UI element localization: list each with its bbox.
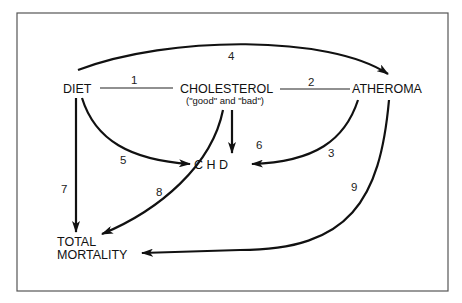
edge-5-diet-to-chd [82,98,190,164]
node-atheroma: ATHEROMA [352,82,423,96]
edge-6-label: 6 [256,139,262,151]
node-cholesterol-sublabel: ("good" and "bad") [186,95,264,106]
node-total-mortality-line1: TOTAL [57,235,96,249]
edge-8-cholesterol-to-mortality [102,110,223,234]
edge-3-atheroma-to-chd [252,100,358,164]
edge-4-label: 4 [228,50,235,62]
node-chd: C H D [194,158,228,172]
edge-9-atheroma-to-mortality [142,100,389,253]
edge-2-label: 2 [308,76,314,88]
edge-1-label: 1 [131,74,137,86]
edge-5-label: 5 [120,154,126,166]
edge-8-label: 8 [156,186,162,198]
node-cholesterol: CHOLESTEROL [180,82,273,96]
edge-7-label: 7 [61,183,67,195]
causal-diagram: 4 1 2 7 5 6 8 3 9 DIET CHOLESTEROL ("goo… [0,0,462,303]
edge-9-label: 9 [351,181,357,193]
edge-3-label: 3 [328,147,334,159]
node-diet: DIET [63,82,92,96]
node-total-mortality-line2: MORTALITY [57,248,128,262]
